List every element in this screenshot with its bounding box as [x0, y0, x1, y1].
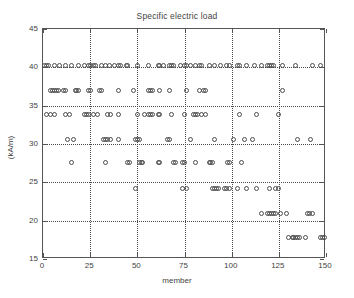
x-tick-label: 150 [318, 261, 331, 270]
data-point [295, 137, 300, 142]
data-point [227, 186, 232, 191]
data-point [193, 160, 198, 165]
data-point [310, 63, 315, 68]
data-point [161, 63, 166, 68]
x-tick-label: 25 [85, 261, 94, 270]
chart-title: Specific electric load [0, 11, 354, 21]
x-tick-label: 75 [179, 261, 188, 270]
data-point [235, 186, 240, 191]
x-tick [232, 29, 233, 33]
data-point [250, 137, 255, 142]
data-point [280, 88, 285, 93]
data-point [199, 63, 204, 68]
data-point [237, 112, 242, 117]
y-tick [320, 67, 324, 68]
data-point [108, 112, 113, 117]
data-point [150, 88, 155, 93]
data-point [157, 112, 162, 117]
y-tick [43, 221, 47, 222]
y-tick [320, 221, 324, 222]
data-point [216, 186, 221, 191]
chart-figure: Specific electric load 0255075100125150 … [0, 0, 354, 298]
data-point [63, 88, 68, 93]
data-point [67, 112, 72, 117]
data-point [107, 63, 112, 68]
data-point [271, 63, 276, 68]
data-point [127, 160, 132, 165]
data-point [273, 211, 278, 216]
x-tick [279, 253, 280, 257]
y-tick [320, 144, 324, 145]
data-point [276, 112, 281, 117]
data-point [135, 63, 140, 68]
y-tick [43, 106, 47, 107]
data-point [76, 63, 81, 68]
x-tick [137, 253, 138, 257]
data-point [237, 63, 242, 68]
x-tick [137, 29, 138, 33]
y-tick [43, 67, 47, 68]
data-point [267, 186, 272, 191]
data-point [146, 63, 151, 68]
data-point [69, 160, 74, 165]
data-point [259, 63, 264, 68]
data-point [116, 112, 121, 117]
y-tick [320, 106, 324, 107]
x-tick [90, 253, 91, 257]
data-point [227, 63, 232, 68]
data-point [218, 63, 223, 68]
data-point [63, 63, 68, 68]
data-point [203, 112, 208, 117]
data-point [210, 160, 215, 165]
data-point [227, 160, 232, 165]
data-point [116, 88, 121, 93]
data-point [310, 211, 315, 216]
x-tick [326, 253, 327, 257]
data-point [188, 137, 193, 142]
data-point [171, 63, 176, 68]
data-point [276, 186, 281, 191]
data-point [88, 88, 93, 93]
y-tick-label: 35 [16, 100, 38, 109]
data-point [133, 186, 138, 191]
x-tick [326, 29, 327, 33]
data-point [184, 88, 189, 93]
data-point [57, 63, 62, 68]
data-point [93, 63, 98, 68]
plot-area [42, 28, 325, 258]
data-point [150, 112, 155, 117]
y-tick [43, 144, 47, 145]
data-point [65, 137, 70, 142]
data-point [125, 63, 130, 68]
data-point [278, 211, 283, 216]
x-tick-label: 100 [224, 261, 237, 270]
x-tick [232, 253, 233, 257]
data-point [52, 63, 57, 68]
data-point [182, 160, 187, 165]
data-point [118, 63, 123, 68]
y-tick [43, 259, 47, 260]
data-point [135, 112, 140, 117]
x-tick [43, 253, 44, 257]
data-point [95, 112, 100, 117]
data-point [137, 137, 142, 142]
data-point [239, 160, 244, 165]
data-point [69, 63, 74, 68]
data-point [254, 186, 259, 191]
data-point [173, 160, 178, 165]
data-point [212, 63, 217, 68]
data-point [242, 137, 247, 142]
data-point [76, 88, 81, 93]
y-tick-label: 45 [16, 24, 38, 33]
y-tick-label: 15 [16, 254, 38, 263]
data-point [169, 112, 174, 117]
data-point [52, 112, 57, 117]
x-tick [185, 253, 186, 257]
x-tick-label: 50 [132, 261, 141, 270]
x-tick-label: 125 [271, 261, 284, 270]
data-point [116, 137, 121, 142]
y-tick-label: 30 [16, 139, 38, 148]
data-point [244, 186, 249, 191]
data-point [157, 88, 162, 93]
y-tick [43, 182, 47, 183]
